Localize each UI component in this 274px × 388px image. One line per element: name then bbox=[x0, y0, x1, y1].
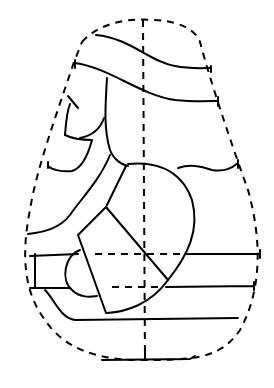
center-axis bbox=[143, 20, 145, 360]
left-lobe bbox=[48, 118, 104, 171]
right-wave bbox=[178, 160, 238, 171]
oval-shape bbox=[107, 164, 195, 313]
line-drawing bbox=[0, 0, 274, 388]
section-line-lower bbox=[166, 282, 254, 290]
left-bracket bbox=[30, 254, 70, 288]
lower-contour bbox=[45, 290, 238, 320]
diagram-canvas bbox=[0, 0, 274, 388]
top-contour-1 bbox=[96, 35, 211, 72]
inner-stem bbox=[105, 78, 128, 166]
top-contour-2 bbox=[75, 60, 218, 106]
left-hook bbox=[65, 96, 78, 135]
